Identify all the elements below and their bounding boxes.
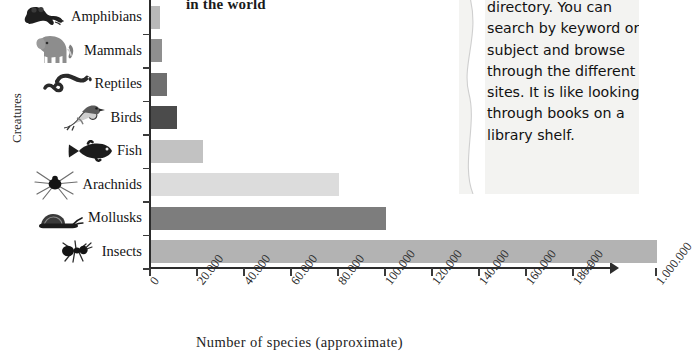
category-row-amphibians: Amphibians — [0, 0, 149, 34]
side-panel-paragraph: directory. You can search by keyword or … — [487, 0, 639, 146]
y-tick — [143, 235, 150, 237]
bar-birds — [151, 106, 177, 129]
category-axis: AmphibiansMammalsReptilesBirdsFishArachn… — [0, 0, 149, 268]
category-row-fish: Fish — [0, 134, 149, 168]
category-row-reptiles: Reptiles — [0, 67, 149, 101]
category-label: Mollusks — [88, 209, 149, 226]
y-tick — [143, 67, 150, 69]
x-axis-arrow-icon — [610, 262, 619, 274]
bar-fish — [151, 140, 203, 163]
x-axis-title: Number of species (approximate) — [196, 334, 403, 351]
category-label: Reptiles — [94, 75, 149, 92]
side-text-panel: directory. You can search by keyword or … — [459, 0, 639, 194]
snake-icon — [42, 69, 94, 99]
x-tick-label: 1.000.000 — [653, 240, 696, 289]
category-row-arachnids: Arachnids — [0, 168, 149, 202]
panel-curve-decoration — [459, 0, 485, 194]
bar-mammals — [151, 39, 162, 62]
category-row-birds: Birds — [0, 101, 149, 135]
y-tick — [143, 101, 150, 103]
category-label: Fish — [117, 142, 149, 159]
side-panel-text: directory. You can search by keyword or … — [487, 0, 639, 146]
spider-icon — [30, 169, 82, 199]
category-label: Amphibians — [71, 8, 149, 25]
bar-mollusks — [151, 207, 386, 230]
bird-icon — [59, 102, 111, 132]
category-row-mollusks: Mollusks — [0, 201, 149, 235]
bar-reptiles — [151, 73, 167, 96]
frog-icon — [19, 2, 71, 32]
category-label: Mammals — [84, 42, 149, 59]
category-row-insects: Insects — [0, 235, 149, 269]
y-tick — [143, 134, 150, 136]
category-label: Arachnids — [82, 176, 149, 193]
category-label: Birds — [111, 109, 149, 126]
fish-icon — [65, 136, 117, 166]
ant-icon — [50, 236, 102, 266]
y-tick — [143, 168, 150, 170]
category-label: Insects — [102, 243, 149, 260]
elephant-icon — [32, 35, 84, 65]
y-tick — [143, 201, 150, 203]
bar-arachnids — [151, 173, 339, 196]
bar-amphibians — [151, 6, 160, 29]
snail-icon — [36, 203, 88, 233]
category-row-mammals: Mammals — [0, 34, 149, 68]
y-tick — [143, 34, 150, 36]
x-tick-label: 0 — [147, 274, 163, 288]
